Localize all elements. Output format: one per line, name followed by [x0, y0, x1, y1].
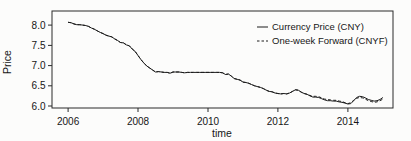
- x-tick-label: 2014: [337, 116, 360, 127]
- y-axis-ticks: 6.06.57.07.58.0: [32, 20, 52, 112]
- y-axis-label: Price: [1, 50, 13, 74]
- currency-chart-figure: 20062008201020122014 6.06.57.07.58.0 tim…: [0, 0, 411, 141]
- y-tick-label: 6.5: [32, 80, 46, 91]
- y-tick-label: 6.0: [32, 101, 46, 112]
- x-tick-label: 2010: [197, 116, 220, 127]
- x-tick-label: 2006: [57, 116, 80, 127]
- x-tick-label: 2012: [267, 116, 290, 127]
- legend: Currency Price (CNY) One-week Forward (C…: [257, 21, 388, 46]
- x-axis-ticks: 20062008201020122014: [57, 108, 359, 127]
- y-tick-label: 8.0: [32, 20, 46, 31]
- legend-label-one-week-forward: One-week Forward (CNYF): [272, 35, 388, 46]
- x-tick-label: 2008: [127, 116, 150, 127]
- y-tick-label: 7.5: [32, 40, 46, 51]
- legend-label-currency-price: Currency Price (CNY): [272, 21, 364, 32]
- x-axis-label: time: [212, 127, 232, 139]
- currency-line-chart: 20062008201020122014 6.06.57.07.58.0 tim…: [0, 0, 411, 141]
- y-tick-label: 7.0: [32, 60, 46, 71]
